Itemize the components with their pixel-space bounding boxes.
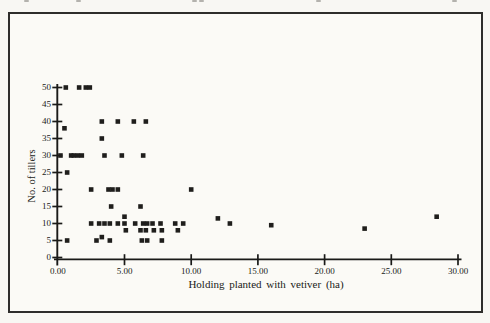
y-tick-label: 15 xyxy=(31,201,51,212)
data-point-marker xyxy=(132,119,137,124)
x-tick-label: 30.00 xyxy=(438,266,478,277)
data-point-marker xyxy=(144,119,149,124)
x-tick-label: 20.00 xyxy=(305,266,345,277)
data-point-marker xyxy=(84,85,89,90)
scanned-scatter-figure: No. of tillers Holding planted with veti… xyxy=(0,0,490,323)
y-tick-label: 50 xyxy=(31,82,51,93)
x-tick-label: 25.00 xyxy=(371,266,411,277)
y-tick-label: 35 xyxy=(31,133,51,144)
y-tick-label: 0 xyxy=(31,252,51,263)
data-point-marker xyxy=(62,126,67,131)
data-point-marker xyxy=(120,153,125,158)
data-point-marker xyxy=(116,187,121,192)
data-point-marker xyxy=(58,153,63,158)
data-point-marker xyxy=(65,238,70,243)
data-point-marker xyxy=(181,221,186,226)
data-point-marker xyxy=(122,214,127,219)
x-axis-title: Holding planted with vetiver (ha) xyxy=(188,278,343,290)
data-point-marker xyxy=(160,228,165,233)
data-point-marker xyxy=(100,136,105,141)
data-point-marker xyxy=(145,221,150,226)
data-point-marker xyxy=(189,187,194,192)
data-point-marker xyxy=(89,187,94,192)
data-point-marker xyxy=(141,221,146,226)
data-point-marker xyxy=(269,223,274,228)
data-point-marker xyxy=(108,221,113,226)
y-tick-label: 20 xyxy=(31,184,51,195)
data-point-marker xyxy=(138,204,143,209)
data-point-marker xyxy=(158,221,163,226)
x-tick-label: 0.00 xyxy=(38,266,78,277)
data-point-marker xyxy=(140,238,145,243)
data-point-marker xyxy=(94,238,99,243)
y-tick-label: 30 xyxy=(31,150,51,161)
data-point-marker xyxy=(89,221,94,226)
data-point-marker xyxy=(100,235,105,240)
x-tick-label: 15.00 xyxy=(238,266,278,277)
data-point-marker xyxy=(106,187,111,192)
data-point-marker xyxy=(109,204,114,209)
y-tick-label: 45 xyxy=(31,99,51,110)
y-tick-label: 25 xyxy=(31,167,51,178)
data-point-marker xyxy=(173,221,178,226)
data-point-marker xyxy=(362,226,367,231)
data-point-marker xyxy=(102,221,107,226)
data-point-marker xyxy=(102,153,107,158)
x-tick-label: 10.00 xyxy=(171,266,211,277)
data-point-marker xyxy=(110,187,115,192)
y-tick-label: 10 xyxy=(31,218,51,229)
data-point-marker xyxy=(122,221,127,226)
data-point-marker xyxy=(108,238,113,243)
x-tick-label: 5.00 xyxy=(105,266,145,277)
data-point-marker xyxy=(88,85,93,90)
data-point-marker xyxy=(97,221,102,226)
data-point-marker xyxy=(141,153,146,158)
data-point-marker xyxy=(133,221,138,226)
data-point-marker xyxy=(100,119,105,124)
data-point-marker xyxy=(65,170,70,175)
data-point-marker xyxy=(64,85,69,90)
data-point-marker xyxy=(228,221,233,226)
data-point-marker xyxy=(145,238,150,243)
data-point-marker xyxy=(150,221,155,226)
data-point-marker xyxy=(176,228,181,233)
y-tick-label: 5 xyxy=(31,235,51,246)
data-point-marker xyxy=(116,221,121,226)
data-point-marker xyxy=(124,228,129,233)
data-point-marker xyxy=(72,153,77,158)
data-point-marker xyxy=(80,153,85,158)
data-point-marker xyxy=(77,85,82,90)
data-point-marker xyxy=(76,153,81,158)
data-point-marker xyxy=(116,119,121,124)
data-point-marker xyxy=(138,228,143,233)
data-point-marker xyxy=(144,228,149,233)
y-tick-label: 40 xyxy=(31,116,51,127)
data-point-marker xyxy=(216,216,221,221)
data-point-marker xyxy=(160,238,165,243)
data-point-marker xyxy=(152,228,157,233)
data-point-marker xyxy=(434,214,439,219)
